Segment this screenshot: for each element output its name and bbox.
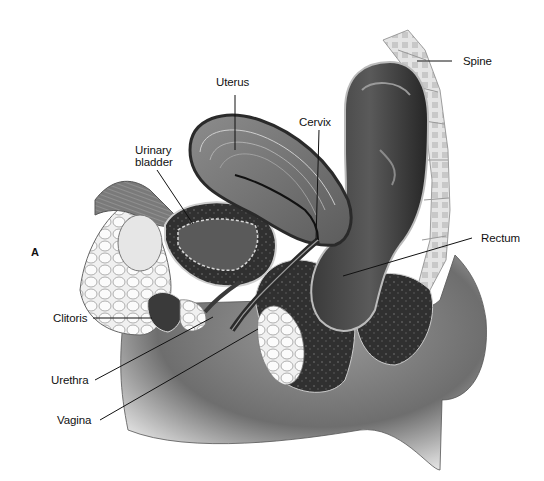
label-urinary-bladder: Urinary bladder [135, 144, 173, 168]
label-urethra: Urethra [51, 374, 89, 386]
label-spine: Spine [463, 55, 492, 67]
label-vagina: Vagina [57, 414, 91, 426]
pubic-bone [118, 215, 162, 271]
label-rectum: Rectum [481, 232, 520, 244]
panel-letter: A [31, 246, 39, 258]
anatomy-figure: A Uterus Cervix Spine Urinary bladder Re… [0, 0, 544, 481]
label-uterus: Uterus [216, 76, 249, 88]
label-cervix: Cervix [299, 116, 331, 128]
pelvis-illustration [0, 0, 544, 481]
label-clitoris: Clitoris [53, 312, 87, 324]
